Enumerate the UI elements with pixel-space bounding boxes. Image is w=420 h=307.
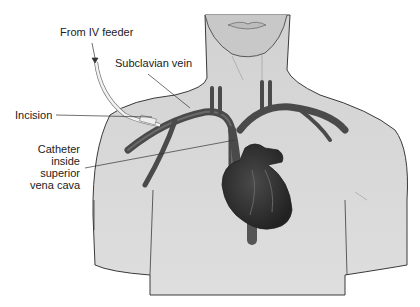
- diagram-canvas: From IV feeder Subclavian vein Incision …: [0, 0, 420, 307]
- label-catheter-line2: inside: [30, 155, 80, 167]
- label-catheter-line3: superior: [30, 167, 80, 179]
- label-incision: Incision: [15, 109, 52, 121]
- label-iv-feeder: From IV feeder: [60, 26, 133, 38]
- label-catheter-line1: Catheter: [30, 143, 80, 155]
- label-catheter-line4: vena cava: [30, 179, 80, 191]
- label-subclavian-vein: Subclavian vein: [115, 57, 192, 69]
- label-catheter-svc: Catheter inside superior vena cava: [30, 143, 80, 191]
